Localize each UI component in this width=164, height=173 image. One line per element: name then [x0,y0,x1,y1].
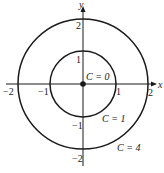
y-tick-1: 1 [76,54,81,65]
x-tick-2: 2 [148,87,153,98]
level-curves-diagram: x y −2 −1 1 2 2 1 −1 −2 C = 0 C = 1 C = … [0,0,164,173]
x-axis-arrow-icon [151,82,157,87]
y-tick-2: 2 [76,20,81,31]
x-tick-neg1: −1 [38,86,49,97]
x-tick-1: 1 [116,86,121,97]
level-point-c0 [80,81,86,87]
curve-label-c1: C = 1 [102,113,125,124]
y-tick-neg2: −2 [72,153,83,164]
x-tick-neg2: −2 [3,86,14,97]
y-axis-label: y [78,0,84,10]
curve-label-c0: C = 0 [86,71,109,82]
y-tick-neg1: −1 [72,120,83,131]
curve-label-c4: C = 4 [117,142,140,153]
x-axis-label: x [157,79,163,90]
